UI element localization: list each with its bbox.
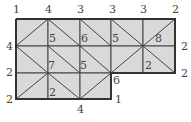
vertex-clue: 2 bbox=[172, 4, 179, 15]
vertex-clue: 6 bbox=[81, 33, 88, 44]
vertex-clue: 3 bbox=[140, 4, 147, 15]
vertex-clue: 5 bbox=[49, 33, 56, 44]
puzzle-board bbox=[0, 0, 191, 122]
vertex-clue: 8 bbox=[155, 33, 162, 44]
vertex-clue: 2 bbox=[6, 67, 13, 78]
vertex-clue: 2 bbox=[181, 68, 188, 79]
vertex-clue: 4 bbox=[6, 41, 13, 52]
vertex-clue: 2 bbox=[49, 87, 56, 98]
vertex-clue: 4 bbox=[77, 104, 84, 115]
vertex-clue: 7 bbox=[48, 60, 55, 71]
vertex-clue: 1 bbox=[13, 4, 20, 15]
vertex-clue: 6 bbox=[113, 75, 120, 86]
vertex-clue: 2 bbox=[145, 60, 152, 71]
vertex-clue: 1 bbox=[115, 94, 122, 105]
vertex-clue: 3 bbox=[77, 4, 84, 15]
vertex-clue: 3 bbox=[109, 4, 116, 15]
vertex-clue: 5 bbox=[80, 60, 87, 71]
vertex-clue: 4 bbox=[45, 4, 52, 15]
vertex-clue: 2 bbox=[6, 94, 13, 105]
vertex-clue: 5 bbox=[112, 33, 119, 44]
vertex-clue: 2 bbox=[181, 41, 188, 52]
